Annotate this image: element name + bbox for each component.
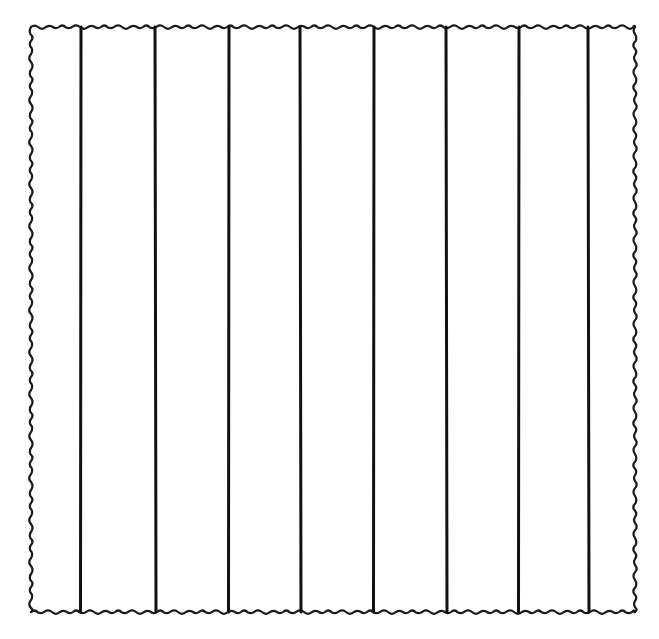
vertical-dividers <box>81 27 590 612</box>
vertical-divider-line <box>155 27 156 612</box>
wavy-border-left <box>29 27 32 612</box>
wavy-border-bottom <box>31 610 635 613</box>
vertical-divider-line <box>588 27 589 612</box>
wavy-border-top <box>31 25 635 28</box>
vertical-divider-line <box>300 27 301 612</box>
vertical-divider-line <box>229 27 230 612</box>
strip-diagram <box>0 0 659 639</box>
vertical-divider-line <box>81 27 82 612</box>
vertical-divider-line <box>519 27 520 612</box>
wavy-border-right <box>633 27 636 612</box>
vertical-divider-line <box>446 27 447 612</box>
vertical-divider-line <box>374 27 375 612</box>
